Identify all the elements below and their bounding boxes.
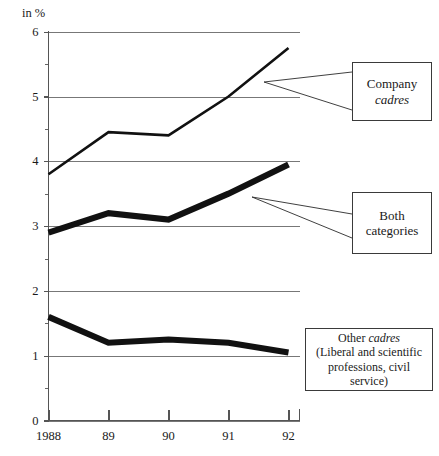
y-axis-label-4: 4 [17, 155, 39, 168]
callout-both-line2: categories [357, 223, 427, 238]
x-axis-label-1988: 1988 [19, 430, 79, 443]
callout-company-line1: Company [357, 76, 427, 91]
callout-company-cadres[interactable]: Company cadres [352, 62, 432, 121]
y-axis-label-1: 1 [17, 350, 39, 363]
callout-other-line2: (Liberal and scientific [310, 345, 428, 359]
callout-other-line1: Other cadres [310, 331, 428, 345]
leader-lines-company [264, 72, 352, 110]
data-series [49, 48, 289, 353]
callout-other-line1-prefix: Other [338, 331, 368, 345]
major-ticks [44, 32, 49, 421]
y-axis-unit-label: in % [22, 7, 45, 20]
callout-other-line4: service) [310, 374, 428, 388]
callout-company-line2: cadres [357, 92, 427, 107]
x-axis-label-92: 92 [259, 430, 319, 443]
series-line-company-cadres [49, 48, 289, 174]
x-axis-label-89: 89 [79, 430, 139, 443]
y-axis-label-5: 5 [17, 91, 39, 104]
callout-both-line1: Both [357, 208, 427, 223]
x-axis-ticks [49, 410, 289, 421]
series-line-both-categories [49, 165, 289, 233]
leader-lines-both [252, 197, 352, 238]
gridlines [49, 32, 301, 421]
series-line-other-cadres [49, 317, 289, 353]
x-axis-label-91: 91 [199, 430, 259, 443]
x-axis-label-90: 90 [139, 430, 199, 443]
y-axis-label-0: 0 [17, 415, 39, 428]
callout-other-line1-italic: cadres [368, 331, 400, 345]
callout-both-categories[interactable]: Both categories [352, 192, 432, 254]
callout-other-line3: professions, civil [310, 360, 428, 374]
y-axis-label-2: 2 [17, 285, 39, 298]
callout-other-cadres[interactable]: Other cadres (Liberal and scientific pro… [305, 328, 433, 391]
y-axis-label-6: 6 [17, 26, 39, 39]
y-axis-label-3: 3 [17, 220, 39, 233]
chart-container: in % 0123456 198889909192 Company cadres… [0, 0, 439, 456]
